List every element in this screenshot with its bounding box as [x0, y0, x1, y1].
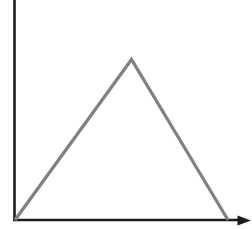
diagram-canvas: [0, 0, 252, 229]
figure-root: [0, 0, 252, 229]
